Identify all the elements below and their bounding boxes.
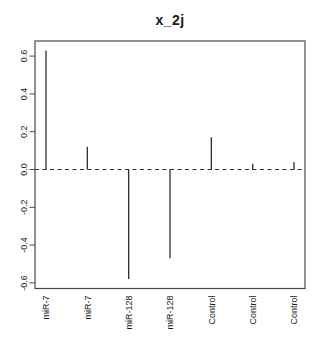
y-tick-label: -0.6 xyxy=(19,275,29,291)
y-tick-label: 0.6 xyxy=(19,50,29,63)
r-stem-plot-figure: x_2j 0.60.40.20.0-0.2-0.4-0.6miR-7miR-7m… xyxy=(0,0,323,341)
y-tick-label: -0.4 xyxy=(19,237,29,253)
x-category-label: Control xyxy=(289,296,299,325)
y-tick-label: -0.2 xyxy=(19,200,29,216)
y-tick-label: 0.0 xyxy=(19,163,29,176)
x-category-label: miR-128 xyxy=(124,296,134,330)
x-category-label: miR-7 xyxy=(41,296,51,320)
stem-chart-svg: 0.60.40.20.0-0.2-0.4-0.6miR-7miR-7miR-12… xyxy=(0,0,323,341)
x-category-label: Control xyxy=(207,296,217,325)
x-category-label: Control xyxy=(248,296,258,325)
x-category-label: miR-128 xyxy=(165,296,175,330)
x-category-label: miR-7 xyxy=(83,296,93,320)
y-tick-label: 0.2 xyxy=(19,125,29,138)
y-tick-label: 0.4 xyxy=(19,88,29,101)
